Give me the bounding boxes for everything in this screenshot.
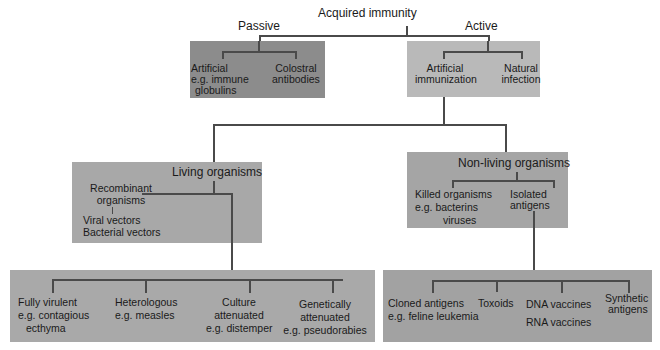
passive-artificial: Artificial e.g. immune globulins xyxy=(191,63,249,96)
active-label: Active xyxy=(465,20,498,33)
connector xyxy=(213,181,215,193)
type-culture-attenuated: Culture attenuated e.g. distemper xyxy=(206,297,272,334)
nonliving-types-box: Cloned antigens e.g. feline leukemia Tox… xyxy=(383,270,652,342)
connector xyxy=(452,180,454,188)
immunization-connector xyxy=(443,97,445,125)
mid-branch-line xyxy=(213,124,506,126)
passive-box: Artificial e.g. immune globulins Colostr… xyxy=(190,41,325,98)
connector xyxy=(432,280,628,282)
living-connector xyxy=(213,124,215,162)
type-cloned-antigens: Cloned antigens e.g. feline leukemia xyxy=(388,298,478,322)
active-box: Artificial immunization Natural infectio… xyxy=(407,41,540,97)
recombinant-organisms: Recombinant organisms xyxy=(86,183,156,206)
passive-colostral: Colostral antibodies xyxy=(272,63,320,85)
connector xyxy=(112,207,113,214)
connector xyxy=(222,51,224,59)
type-fully-virulent: Fully virulent e.g. contagious ecthyma xyxy=(18,297,89,334)
connector xyxy=(249,279,251,293)
root-title: Acquired immunity xyxy=(318,7,417,20)
connector xyxy=(295,51,297,59)
connector xyxy=(52,279,54,293)
recombinant-vectors: Viral vectors Bacterial vectors xyxy=(83,215,161,238)
nonliving-connector xyxy=(505,124,507,153)
connector xyxy=(432,280,434,293)
nonliving-organisms-label: Non-living organisms xyxy=(458,157,570,170)
type-toxoids: Toxoids xyxy=(478,298,514,309)
living-organisms-box: Living organisms Recombinant organisms V… xyxy=(72,162,262,243)
nonliving-organisms-box: Non-living organisms Killed organisms e.… xyxy=(407,152,568,228)
connector xyxy=(561,280,563,293)
connector xyxy=(443,51,445,59)
type-genetically-attenuated: Genetically attenuated e.g. pseudorabies xyxy=(282,299,368,336)
connector xyxy=(521,51,523,59)
connector xyxy=(222,51,296,53)
type-synthetic-antigens: Synthetic antigens xyxy=(605,293,648,315)
connector xyxy=(332,279,334,293)
active-artificial-immunization: Artificial immunization xyxy=(415,63,475,85)
connector xyxy=(52,279,343,281)
connector xyxy=(452,180,554,182)
connector xyxy=(258,41,260,51)
connector xyxy=(443,51,522,53)
living-types-box: Fully virulent e.g. contagious ecthyma H… xyxy=(10,270,375,342)
isolated-antigens: Isolated antigens xyxy=(510,189,550,211)
killed-organisms: Killed organisms e.g. bacterins viruses xyxy=(415,189,492,226)
living-organisms-label: Living organisms xyxy=(172,166,262,179)
connector xyxy=(553,180,555,188)
connector xyxy=(145,279,147,293)
active-natural-infection: Natural infection xyxy=(501,63,541,85)
type-dna-rna-vaccines: DNA vaccines RNA vaccines xyxy=(526,299,591,328)
living-types-connector xyxy=(231,193,233,278)
connector xyxy=(487,41,489,51)
type-heterologous: Heterologous e.g. measles xyxy=(115,297,177,321)
passive-label: Passive xyxy=(238,20,280,33)
connector xyxy=(496,280,498,292)
top-branch-line xyxy=(259,35,489,37)
